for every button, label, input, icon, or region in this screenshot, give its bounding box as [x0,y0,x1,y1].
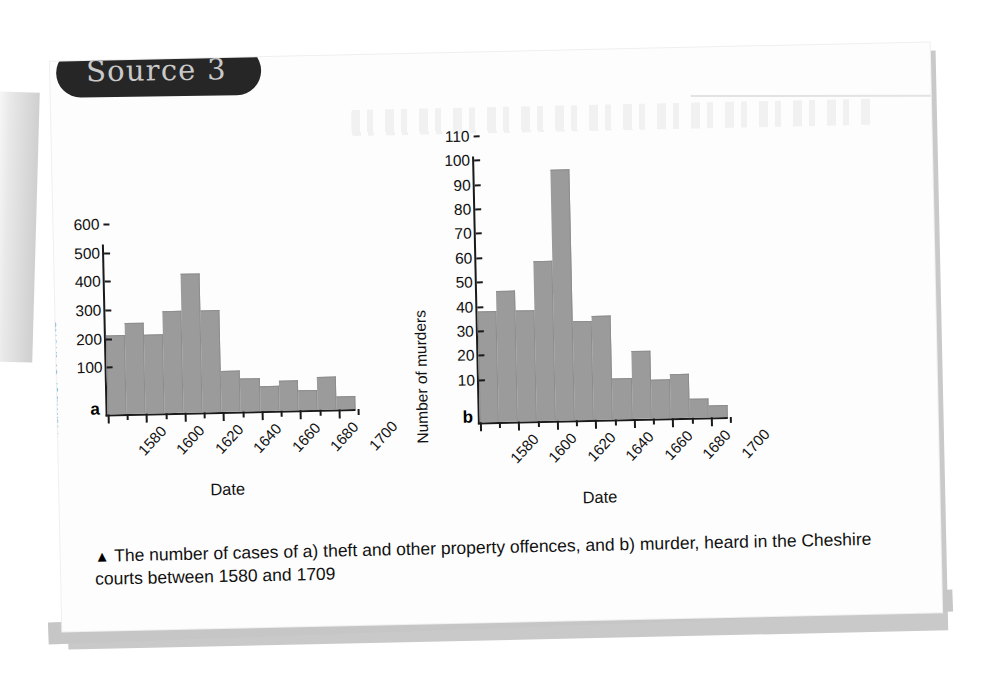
y-axis-tick: 60 [455,249,477,267]
chart-a-thefts: Number of thefts 10020030040050060015801… [102,239,356,416]
x-axis-tick-major [634,419,636,428]
bar [181,274,203,413]
bar [573,321,594,421]
bar [317,377,337,410]
x-axis-tick-major [108,414,110,423]
y-axis-tick: 100 [77,359,107,378]
y-axis-tick: 100 [444,152,474,171]
bar [592,316,613,420]
x-axis-tick-major [480,422,482,431]
bar [477,311,498,423]
x-axis-tick-minor [614,419,616,425]
bar [240,379,260,412]
source-badge-label: Source 3 [86,55,227,86]
y-axis-tick: 90 [453,176,475,194]
x-axis-tick-label: 1660 [288,419,323,455]
adjacent-page-edge [0,91,40,362]
caption-triangle-icon: ▲ [95,547,110,564]
figure-caption: ▲ The number of cases of a) theft and ot… [94,527,895,591]
y-axis-tick: 600 [73,216,103,235]
caption-text: The number of cases of a) theft and othe… [95,529,872,589]
bar [163,311,184,413]
x-axis-tick-minor [204,412,206,418]
bar [201,310,222,412]
bar [336,396,355,409]
x-axis-tick-minor [653,419,655,425]
scanned-textbook-page: Source 3 Number of thefts 10020030040050… [0,0,991,688]
y-axis-tick: 10 [457,371,479,389]
x-axis-tick-label: 1580 [507,430,542,466]
x-axis-tick-minor [242,412,244,418]
x-axis-tick-major [557,421,559,430]
x-axis-tick-minor [358,409,360,415]
x-axis-tick-major [223,412,225,421]
bar [551,169,576,421]
x-axis-tick-minor [319,410,321,416]
y-axis-tick: 300 [75,302,105,321]
chart-a-bars [104,239,356,414]
y-axis-tick: 500 [74,244,104,263]
x-axis-tick-label: 1680 [699,426,734,462]
y-axis-tick: 200 [76,330,106,349]
x-axis-tick-major [146,414,148,423]
x-axis-tick-major [261,411,263,420]
x-axis-tick-label: 1660 [661,427,696,463]
bar [298,390,317,410]
bar [689,398,708,418]
x-axis-tick-label: 1600 [173,422,208,458]
x-axis-tick-minor [691,418,693,424]
chart-b-y-axis-label: Number of murders [411,310,432,444]
x-axis-tick-label: 1680 [327,418,362,454]
bar [125,323,146,414]
x-axis-tick-label: 1580 [135,422,170,458]
y-axis-tick: 70 [454,225,476,243]
bar [278,381,298,411]
x-axis-tick-label: 1600 [545,429,580,465]
bar [651,380,671,419]
y-axis-tick: 50 [455,274,477,292]
bar [516,310,537,422]
bar [260,385,280,411]
chart-b-bars [474,151,728,422]
x-axis-tick-label: 1640 [622,428,657,464]
x-axis-tick-major [338,409,340,418]
chart-a-panel-letter: a [90,400,100,420]
x-axis-tick-minor [281,411,283,417]
x-axis-tick-label: 1620 [584,429,619,465]
chart-a-plot-area: 1002003004005006001580160016201640166016… [102,239,356,416]
x-axis-tick-major [185,413,187,422]
x-axis-tick-minor [538,421,540,427]
x-axis-tick-minor [127,414,129,420]
bar [669,374,689,418]
y-axis-tick: 80 [454,201,476,219]
chart-b-plot-area: 1020304050607080901001101580160016201640… [472,151,728,424]
charts-container: Number of thefts 10020030040050060015801… [52,122,940,531]
x-axis-tick-major [595,420,597,429]
bar [106,335,127,415]
bar [221,371,241,412]
bar [708,405,727,417]
bar [631,351,652,419]
source-badge: Source 3 [56,46,261,98]
x-axis-tick-major [300,410,302,419]
y-axis-tick: 400 [75,273,105,292]
x-axis-tick-label: 1620 [211,421,246,457]
y-axis-tick: 110 [445,127,474,146]
x-axis-tick-label: 1700 [737,425,772,461]
y-axis-tick: 40 [456,298,478,316]
bar [612,378,632,419]
x-axis-tick-major [711,417,713,426]
x-axis-tick-minor [576,420,578,426]
x-axis-tick-minor [499,422,501,428]
source-card: Source 3 Number of thefts 10020030040050… [50,42,942,631]
chart-b-murders: Number of murders 1020304050607080901001… [472,151,728,424]
bar [144,334,165,414]
x-axis-tick-label: 1700 [365,417,400,453]
chart-b-x-axis-label: Date [582,487,617,507]
chart-a-y-axis-label: Number of thefts [50,321,62,436]
y-axis-tick: 20 [457,347,479,365]
chart-b-panel-letter: b [463,408,474,428]
page-fold-line [691,95,941,97]
chart-a-x-axis-label: Date [210,480,245,500]
x-axis-tick-label: 1640 [250,420,285,456]
